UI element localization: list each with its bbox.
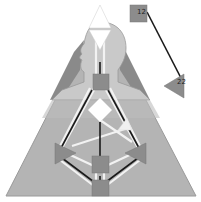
throat-center	[93, 74, 109, 90]
bodygraph-diagram: 12 22	[0, 0, 201, 202]
sacral-center	[92, 156, 109, 173]
gate-22-label: 22	[177, 78, 186, 86]
head-center	[89, 5, 111, 28]
connector-line	[147, 12, 182, 80]
root-center	[92, 180, 109, 196]
gate-12-label: 12	[137, 8, 146, 16]
